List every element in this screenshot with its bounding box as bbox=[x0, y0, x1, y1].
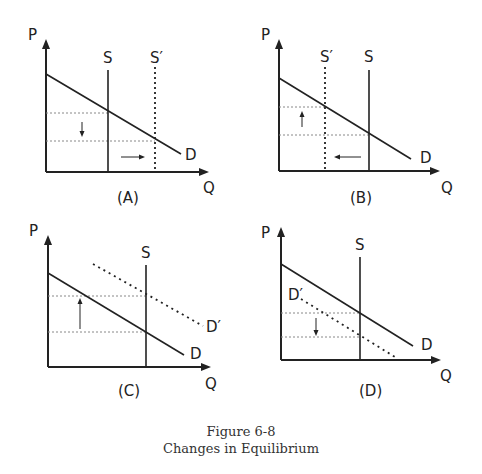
x-axis-label: Q bbox=[205, 375, 217, 393]
panel-d: P Q S D D′ (D) bbox=[261, 224, 452, 400]
demand-curve bbox=[279, 78, 411, 159]
figure-number: Figure 6-8 bbox=[0, 423, 482, 440]
demand-shifted-label: D′ bbox=[288, 286, 304, 304]
x-axis-label: Q bbox=[440, 367, 452, 385]
x-axis-label: Q bbox=[203, 179, 215, 197]
supply-label: S bbox=[364, 48, 374, 66]
demand-label: D bbox=[185, 146, 197, 164]
supply-label: S bbox=[355, 236, 365, 254]
demand-curve bbox=[46, 74, 181, 154]
x-axis-label: Q bbox=[441, 179, 453, 197]
supply-label: S bbox=[103, 49, 113, 67]
demand-label: D bbox=[421, 336, 433, 354]
panel-label: (C) bbox=[118, 382, 140, 400]
demand-shifted-curve bbox=[93, 264, 203, 326]
panel-b: P Q S′ S D (B) bbox=[261, 26, 453, 207]
y-axis-label: P bbox=[261, 26, 270, 44]
panel-label: (D) bbox=[359, 382, 382, 400]
panel-a: P Q S S′ D (A) bbox=[28, 26, 215, 207]
supply-shifted-label: S′ bbox=[320, 48, 334, 66]
demand-curve bbox=[48, 273, 184, 355]
supply-label: S bbox=[141, 244, 151, 262]
demand-curve bbox=[281, 264, 413, 346]
y-axis-label: P bbox=[261, 224, 270, 242]
demand-shifted-label: D′ bbox=[206, 318, 222, 336]
y-axis-label: P bbox=[29, 222, 38, 240]
demand-label: D bbox=[190, 345, 202, 363]
panel-c: P Q S D D′ (C) bbox=[29, 222, 222, 400]
panel-label: (B) bbox=[350, 189, 372, 207]
y-axis-label: P bbox=[28, 26, 37, 44]
figure-title: Changes in Equilibrium bbox=[0, 440, 482, 457]
equilibrium-figure: P Q S S′ D (A) P Q S′ S D bbox=[0, 0, 482, 474]
panel-label: (A) bbox=[117, 189, 139, 207]
demand-shifted-curve bbox=[301, 299, 395, 357]
demand-label: D bbox=[420, 149, 432, 167]
supply-shifted-label: S′ bbox=[150, 49, 164, 67]
